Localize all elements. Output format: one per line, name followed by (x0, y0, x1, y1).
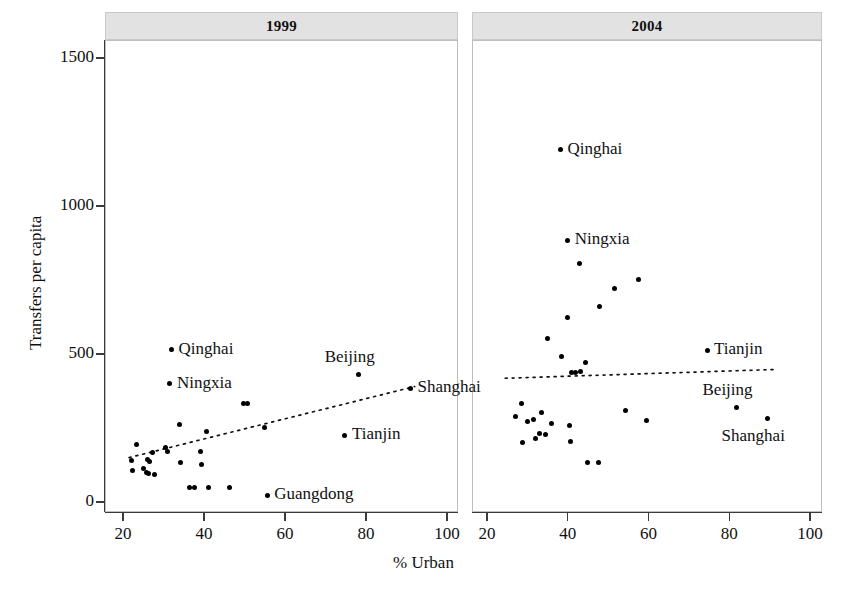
data-point (533, 436, 538, 441)
data-point (245, 401, 250, 406)
data-point (644, 418, 649, 423)
data-point (734, 405, 739, 410)
data-point (597, 304, 602, 309)
data-point-label: Guangdong (274, 484, 353, 504)
data-point (187, 485, 192, 490)
data-point (408, 386, 413, 391)
data-point (165, 449, 170, 454)
data-point (543, 432, 548, 437)
data-point (537, 431, 542, 436)
data-point (565, 238, 570, 243)
data-point-label: Qinghai (179, 339, 234, 359)
data-point (565, 315, 570, 320)
data-point (545, 336, 550, 341)
data-point (147, 459, 152, 464)
data-point-label: Beijing (325, 347, 375, 367)
data-point-label: Shanghai (418, 377, 481, 397)
data-point (525, 419, 530, 424)
data-point (206, 485, 211, 490)
data-point-label: Ningxia (575, 229, 630, 249)
data-point (199, 462, 204, 467)
data-point (130, 468, 135, 473)
data-point (262, 425, 267, 430)
data-point (198, 449, 203, 454)
data-point-label: Ningxia (177, 373, 232, 393)
trend-line (129, 387, 415, 458)
data-point (705, 348, 710, 353)
data-point-label: Tianjin (352, 424, 401, 444)
data-point-label: Shanghai (722, 426, 785, 446)
figure-canvas: 1999 2004 Transfers per capita % Urban 0… (0, 0, 842, 598)
trend-line (505, 369, 778, 378)
data-point (765, 416, 770, 421)
data-point (265, 493, 270, 498)
data-point-label: Tianjin (714, 339, 763, 359)
data-point-label: Beijing (703, 380, 753, 400)
data-point (150, 450, 155, 455)
data-point (356, 372, 361, 377)
trend-line-layer (0, 0, 842, 598)
data-point (192, 485, 197, 490)
data-point (636, 277, 641, 282)
data-point (513, 414, 518, 419)
data-point (177, 422, 182, 427)
data-point-label: Qinghai (567, 139, 622, 159)
